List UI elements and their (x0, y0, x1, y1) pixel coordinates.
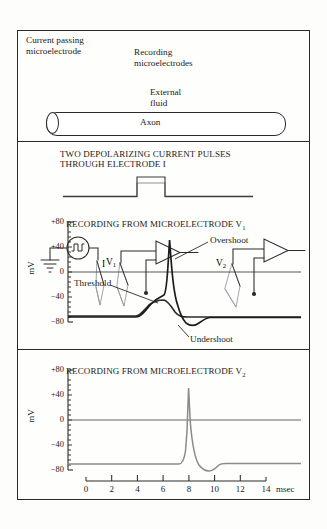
v2-ytick-0: 0 (40, 415, 64, 424)
xtick-0: 0 (78, 484, 94, 494)
v1-y-ticks (68, 232, 72, 317)
reference-contact-2 (252, 292, 256, 296)
microelectrode-icon-V1 (117, 263, 128, 306)
pulse-generator-icon (67, 237, 89, 259)
v2-symbol-label: V2 (216, 258, 226, 269)
v1-ytick-40n: −40 (40, 292, 64, 301)
amplifier-triangle-icon-1 (156, 241, 198, 264)
v1-symbol-label: V1 (106, 257, 116, 268)
xtick-4: 4 (129, 484, 145, 494)
v2-title: RECORDING FROM MICROELECTRODE V2 (66, 356, 246, 378)
axon-label: Axon (140, 117, 160, 127)
reference-contact-1 (144, 291, 148, 295)
amplifier-triangle-icon-2 (264, 239, 305, 262)
panel-divider-2 (18, 349, 309, 350)
v2-ytick-40n: −40 (40, 440, 64, 449)
recording-electrodes-label: Recording microelectrodes (134, 47, 193, 68)
threshold-annotation: Threshold (74, 278, 111, 288)
v2-y-ticks (68, 380, 72, 465)
threshold-leader-line (110, 285, 158, 303)
experimental-setup-panel: Current passing microelectrode Recording… (18, 31, 309, 141)
xtick-14: 14 (258, 484, 274, 494)
overshoot-leader-line (175, 242, 208, 259)
v1-title: RECORDING FROM MICROELECTRODE V1 (66, 209, 246, 231)
v2-ytick-80n: −80 (40, 465, 64, 474)
current-symbol-label: I (102, 259, 105, 269)
v1-ytick-40p: +40 (40, 242, 64, 251)
v2-title-text: RECORDING FROM MICROELECTRODE V (66, 366, 242, 376)
v1-ytick-80n: −80 (40, 317, 64, 326)
axon-end-cap (46, 112, 59, 134)
pulse-waveform-glyph (72, 244, 84, 251)
v1-title-text: RECORDING FROM MICROELECTRODE V (66, 219, 242, 229)
xtick-2: 2 (104, 484, 120, 494)
v1-ytick-80p: +80 (40, 217, 64, 226)
v1-axis-label: mV (26, 257, 36, 279)
xtick-8: 8 (181, 484, 197, 494)
v1-subthreshold-trace (68, 300, 301, 317)
v2-axis-label: mV (26, 405, 36, 427)
stimulus-pulse-suprathreshold (63, 177, 253, 197)
stimulus-pulse-subthreshold (63, 183, 253, 196)
undershoot-annotation: Undershoot (190, 334, 233, 344)
axon-cylinder (46, 112, 286, 136)
v2-action-potential-trace (68, 388, 301, 471)
xtick-6: 6 (155, 484, 171, 494)
xaxis-unit-label: msec (276, 484, 295, 494)
v2-ytick-80p: +80 (40, 365, 64, 374)
undershoot-leader-line (178, 325, 189, 337)
figure-frame: Current passing microelectrode Recording… (17, 30, 310, 500)
panel-divider (18, 141, 309, 142)
v1-title-subscript: 1 (242, 224, 245, 231)
v1-ytick-0: 0 (40, 267, 64, 276)
xtick-10: 10 (207, 484, 223, 494)
overshoot-annotation: Overshoot (210, 235, 248, 245)
v2-title-subscript: 2 (242, 371, 245, 378)
xtick-12: 12 (232, 484, 248, 494)
stimulus-title: TWO DEPOLARIZING CURRENT PULSES THROUGH … (60, 149, 231, 169)
microelectrode-icon-V2 (225, 264, 240, 307)
external-fluid-label: External fluid (150, 87, 181, 108)
v2-ytick-40p: +40 (40, 390, 64, 399)
current-electrode-label: Current passing microelectrode (26, 35, 84, 56)
